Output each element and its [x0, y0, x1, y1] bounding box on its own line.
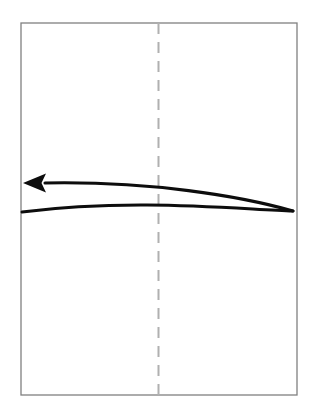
origami-diagram-canvas: Origami fold step diagram valley fold ri…: [0, 0, 315, 420]
diagram-svg: [0, 0, 315, 420]
